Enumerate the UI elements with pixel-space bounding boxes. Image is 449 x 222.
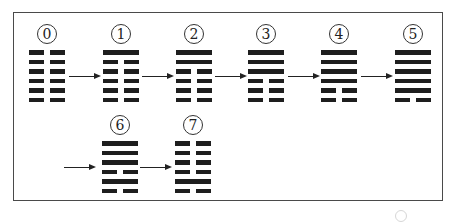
yin-line — [248, 79, 284, 84]
hexagram-number-label: 3 — [256, 24, 276, 44]
yin-line — [175, 160, 211, 165]
page-watermark-icon — [395, 210, 407, 222]
yin-line — [103, 69, 139, 74]
yin-line — [103, 79, 139, 84]
diagram-frame — [13, 12, 443, 201]
yang-line — [395, 69, 431, 74]
hexagram-lines — [175, 141, 211, 198]
yang-line — [395, 88, 431, 93]
yin-line — [175, 151, 211, 156]
hexagram-number-label: 2 — [184, 24, 204, 44]
hexagram-lines — [102, 141, 138, 198]
yin-line — [29, 69, 65, 74]
yang-line — [102, 179, 138, 184]
yang-line — [321, 60, 357, 65]
hexagram-lines — [176, 50, 212, 107]
yang-line — [176, 60, 212, 65]
yang-line — [103, 50, 139, 55]
yin-line — [175, 170, 211, 175]
yin-line — [29, 88, 65, 93]
arrow-right-icon — [69, 73, 101, 81]
hexagram-number-label: 6 — [110, 115, 130, 135]
yin-line — [321, 98, 357, 103]
yang-line — [395, 50, 431, 55]
yin-line — [175, 189, 211, 194]
yang-line — [395, 60, 431, 65]
hexagram-number-label: 0 — [37, 24, 57, 44]
yang-line — [248, 69, 284, 74]
hexagram-lines — [395, 50, 431, 107]
yin-line — [175, 141, 211, 146]
arrow-right-icon — [288, 73, 320, 81]
hexagram-number-label: 5 — [403, 24, 423, 44]
yang-line — [321, 69, 357, 74]
hexagram-number-label: 1 — [111, 24, 131, 44]
hexagram-lines — [103, 50, 139, 107]
yin-line — [395, 98, 431, 103]
yin-line — [103, 60, 139, 65]
yang-line — [175, 179, 211, 184]
hexagram-number-label: 4 — [329, 24, 349, 44]
yang-line — [321, 79, 357, 84]
yin-line — [29, 98, 65, 103]
yin-line — [176, 79, 212, 84]
yang-line — [176, 50, 212, 55]
yin-line — [102, 189, 138, 194]
yin-line — [103, 98, 139, 103]
yin-line — [248, 88, 284, 93]
arrow-right-icon — [140, 164, 172, 172]
yin-line — [248, 98, 284, 103]
arrow-right-icon — [64, 164, 96, 172]
hexagram-number-label: 7 — [183, 115, 203, 135]
yang-line — [102, 151, 138, 156]
hexagram-lines — [248, 50, 284, 107]
arrow-right-icon — [361, 73, 393, 81]
yang-line — [321, 50, 357, 55]
yang-line — [248, 60, 284, 65]
yin-line — [176, 69, 212, 74]
arrow-right-icon — [215, 73, 247, 81]
yang-line — [102, 141, 138, 146]
yin-line — [102, 170, 138, 175]
yin-line — [29, 50, 65, 55]
yin-line — [321, 88, 357, 93]
yang-line — [102, 160, 138, 165]
yang-line — [395, 79, 431, 84]
yin-line — [29, 60, 65, 65]
arrow-right-icon — [142, 73, 174, 81]
yang-line — [248, 50, 284, 55]
yin-line — [176, 88, 212, 93]
yin-line — [176, 98, 212, 103]
hexagram-lines — [321, 50, 357, 107]
hexagram-lines — [29, 50, 65, 107]
yin-line — [103, 88, 139, 93]
yin-line — [29, 79, 65, 84]
